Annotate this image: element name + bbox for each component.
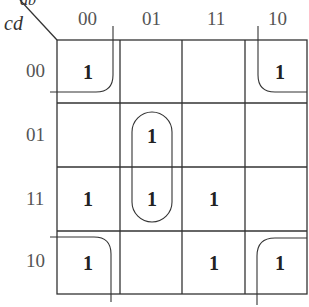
kmap-grid — [0, 0, 309, 307]
cell-10-11: 1 — [204, 252, 224, 275]
row-variable-label: cd — [4, 12, 23, 35]
cell-10-00: 1 — [78, 252, 98, 275]
row-label-10: 10 — [26, 250, 45, 272]
col-label-01: 01 — [142, 8, 161, 30]
cell-00-10: 1 — [270, 61, 290, 84]
col-label-10: 10 — [268, 8, 287, 30]
col-label-00: 00 — [78, 8, 97, 30]
cell-00-00: 1 — [78, 61, 98, 84]
row-label-00: 00 — [26, 60, 45, 82]
col-label-11: 11 — [207, 8, 225, 30]
cell-11-01: 1 — [142, 188, 162, 211]
cell-01-01: 1 — [142, 125, 162, 148]
cell-11-00: 1 — [78, 188, 98, 211]
row-label-01: 01 — [26, 124, 45, 146]
row-label-11: 11 — [26, 188, 44, 210]
col-variable-label: ab — [20, 0, 36, 9]
cell-10-10: 1 — [270, 252, 290, 275]
cell-11-11: 1 — [204, 188, 224, 211]
